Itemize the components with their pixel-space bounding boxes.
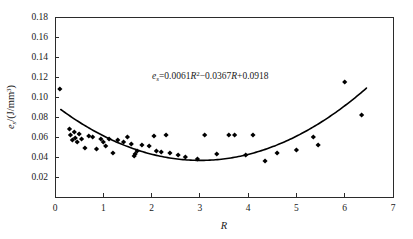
x-tick-label: 5 <box>294 203 299 213</box>
x-tick-label: 2 <box>149 203 154 213</box>
y-tick-label: 0.16 <box>31 32 48 42</box>
y-tick-label: 0.04 <box>31 152 48 162</box>
x-tick-label: 0 <box>53 203 58 213</box>
equation-part-1: =0.0061 <box>159 71 191 81</box>
chart-background <box>0 0 413 239</box>
y-tick-label: 0.18 <box>31 12 48 22</box>
x-tick-label: 3 <box>197 203 202 213</box>
y-axis-title-close: ) <box>5 84 17 88</box>
equation-part-2: −0.0367 <box>200 71 232 81</box>
y-tick-label: 0.06 <box>31 132 48 142</box>
y-tick-label: 0.02 <box>31 172 48 182</box>
y-tick-label: 0.08 <box>31 112 48 122</box>
figure-container: 0.020.040.060.080.100.120.140.160.18 012… <box>0 0 413 239</box>
x-tick-label: 7 <box>391 203 396 213</box>
x-tick-label: 4 <box>246 203 251 213</box>
y-tick-label: 0.12 <box>31 72 48 82</box>
y-tick-label: 0.10 <box>31 92 48 102</box>
y-axis-title-unit: /(J/mm <box>5 92 17 122</box>
scatter-chart: 0.020.040.060.080.100.120.140.160.18 012… <box>0 0 413 239</box>
x-tick-label: 1 <box>101 203 106 213</box>
y-tick-label: 0.14 <box>31 52 48 62</box>
x-tick-label: 6 <box>342 203 347 213</box>
x-axis-title: R <box>220 220 228 231</box>
y-axis-tick-labels: 0.020.040.060.080.100.120.140.160.18 <box>31 12 48 182</box>
equation-part-3: +0.0918 <box>237 71 269 81</box>
